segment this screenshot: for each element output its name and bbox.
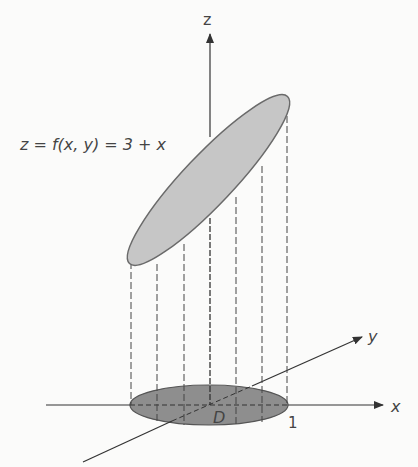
surface-patch — [111, 79, 305, 280]
y-axis-end — [252, 337, 362, 386]
y-axis-label: y — [367, 327, 378, 346]
volume-diagram: z z = f(x, y) = 3 + x y x D 1 — [0, 0, 418, 467]
z-axis-label: z — [203, 10, 211, 29]
x-tick-1: 1 — [288, 414, 298, 432]
equation-label: z = f(x, y) = 3 + x — [19, 135, 167, 154]
y-axis — [83, 421, 172, 462]
x-axis-label: x — [390, 397, 401, 416]
region-label: D — [213, 408, 225, 427]
